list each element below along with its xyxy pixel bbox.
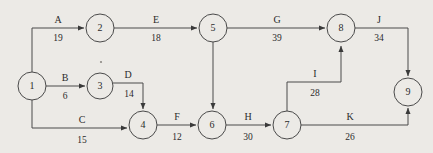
node-label: 8 bbox=[339, 22, 344, 33]
node-label: 7 bbox=[285, 119, 290, 130]
node-3[interactable]: 3 bbox=[87, 73, 113, 99]
node-4[interactable]: 4 bbox=[129, 111, 157, 139]
edge-weight: 28 bbox=[310, 88, 320, 98]
edge-label: B bbox=[62, 72, 69, 83]
edge-label: A bbox=[54, 14, 62, 25]
edge-label: E bbox=[153, 14, 159, 25]
edge-weight: 6 bbox=[63, 91, 68, 101]
node-7[interactable]: 7 bbox=[273, 111, 301, 139]
node-6[interactable]: 6 bbox=[198, 111, 226, 139]
network-diagram-svg: A19B6C15D14E18F12G39H30I28J34K26 1234567… bbox=[0, 0, 433, 153]
edge-j: J34 bbox=[355, 14, 408, 76]
edge-weight: 12 bbox=[172, 132, 182, 142]
edge-weight: 14 bbox=[124, 89, 134, 99]
edge-weight: 26 bbox=[345, 132, 355, 142]
network-diagram-canvas: A19B6C15D14E18F12G39H30I28J34K26 1234567… bbox=[0, 0, 433, 153]
edge-weight: 15 bbox=[77, 135, 87, 145]
edge-d: D14 bbox=[113, 69, 143, 109]
edge-f: F12 bbox=[157, 111, 196, 142]
edge-label: I bbox=[313, 68, 316, 79]
edge-label: C bbox=[79, 114, 86, 125]
edge-i: I28 bbox=[287, 46, 341, 111]
edge-k: K26 bbox=[301, 108, 408, 142]
edge-weight: 18 bbox=[151, 33, 161, 43]
artifacts-layer bbox=[100, 61, 102, 63]
edge-a: A19 bbox=[32, 14, 84, 72]
edge-weight: 19 bbox=[53, 33, 63, 43]
node-9[interactable]: 9 bbox=[394, 78, 422, 106]
edge-e: E18 bbox=[114, 14, 197, 43]
speck-above-node-3 bbox=[100, 61, 102, 63]
edge-weight: 34 bbox=[374, 33, 384, 43]
node-2[interactable]: 2 bbox=[86, 14, 114, 42]
edge-label: H bbox=[244, 111, 251, 122]
node-label: 4 bbox=[141, 119, 146, 130]
edge-label: D bbox=[124, 69, 131, 80]
edge-weight: 39 bbox=[272, 33, 282, 43]
node-label: 1 bbox=[30, 80, 35, 91]
edge-label: K bbox=[346, 111, 354, 122]
node-label: 3 bbox=[98, 80, 103, 91]
node-label: 2 bbox=[98, 22, 103, 33]
node-label: 6 bbox=[210, 119, 215, 130]
node-8[interactable]: 8 bbox=[327, 14, 355, 42]
edge-label: F bbox=[174, 111, 180, 122]
edge-label: G bbox=[273, 14, 280, 25]
node-5[interactable]: 5 bbox=[199, 14, 227, 42]
edge-h: H30 bbox=[226, 111, 271, 142]
node-label: 9 bbox=[406, 86, 411, 97]
edge-label: J bbox=[377, 14, 381, 25]
edge-line bbox=[301, 108, 408, 125]
node-label: 5 bbox=[211, 22, 216, 33]
edge-c: C15 bbox=[32, 100, 127, 145]
edge-g: G39 bbox=[227, 14, 325, 43]
edge-b: B6 bbox=[46, 72, 85, 101]
edge-weight: 30 bbox=[243, 132, 253, 142]
node-1[interactable]: 1 bbox=[18, 72, 46, 100]
